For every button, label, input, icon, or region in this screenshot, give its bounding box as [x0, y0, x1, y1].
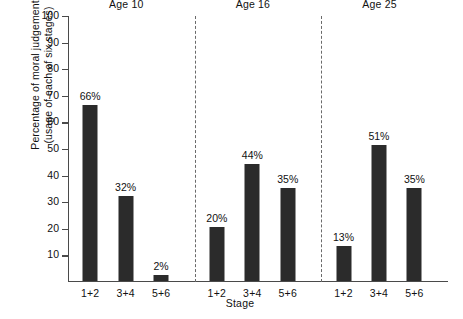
- chart-figure: Percentage of moral judgement (usage of …: [0, 0, 463, 319]
- plot-area: 10090807060504030201066%1+232%3+42%5+620…: [68, 16, 448, 282]
- group-separator: [195, 16, 196, 282]
- bar-value-label: 20%: [206, 212, 227, 224]
- y-axis-tick-label: 10: [47, 248, 59, 260]
- y-axis-tick-label: 50: [47, 142, 59, 154]
- group-title-age-16: Age 16: [236, 0, 270, 10]
- x-axis-tick-label: 1+2: [208, 287, 226, 299]
- y-axis-tick-label: 70: [47, 89, 59, 101]
- x-axis-tick-label: 3+4: [370, 287, 388, 299]
- y-axis-tick-label: 30: [47, 195, 59, 207]
- bar-value-label: 51%: [368, 130, 389, 142]
- bar: 44%: [245, 164, 260, 281]
- bar: 20%: [209, 227, 224, 280]
- y-axis-tick-mark: [62, 149, 69, 150]
- y-axis-tick-mark: [62, 202, 69, 203]
- y-axis-tick-label: 60: [47, 115, 59, 127]
- bar-value-label: 13%: [333, 231, 354, 243]
- y-axis-tick-label: 40: [47, 169, 59, 181]
- x-axis-tick-label: 5+6: [279, 287, 297, 299]
- bar-value-label: 35%: [404, 173, 425, 185]
- y-axis-tick-mark: [62, 16, 69, 17]
- bar: 32%: [118, 196, 133, 281]
- x-axis-tick-label: 5+6: [405, 287, 423, 299]
- group-title-age-10: Age 10: [109, 0, 143, 10]
- y-axis-tick-mark: [62, 69, 69, 70]
- x-axis-tick-label: 1+2: [334, 287, 352, 299]
- bar-value-label: 32%: [115, 181, 136, 193]
- x-axis-tick-label: 3+4: [116, 287, 134, 299]
- y-axis-tick-mark: [62, 229, 69, 230]
- y-axis-tick-mark: [62, 255, 69, 256]
- bar: 51%: [371, 145, 386, 281]
- y-axis-tick-label: 20: [47, 222, 59, 234]
- y-axis-tick-mark: [62, 122, 69, 123]
- bar-value-label: 2%: [154, 260, 169, 272]
- y-axis-tick-mark: [62, 43, 69, 44]
- y-axis-tick-label: 100: [41, 9, 59, 21]
- y-axis-tick-label: 90: [47, 36, 59, 48]
- x-axis-tick-label: 1+2: [81, 287, 99, 299]
- bar: 35%: [407, 188, 422, 281]
- group-separator: [321, 16, 322, 282]
- bar-value-label: 35%: [277, 173, 298, 185]
- bar-value-label: 44%: [242, 149, 263, 161]
- y-axis-tick-mark: [62, 176, 69, 177]
- bar: 2%: [154, 275, 169, 280]
- bar: 13%: [336, 246, 351, 281]
- y-axis-tick-label: 80: [47, 62, 59, 74]
- y-axis-title-line-1: Percentage of moral judgement: [29, 0, 42, 149]
- bar-value-label: 66%: [80, 90, 101, 102]
- bar: 35%: [280, 188, 295, 281]
- x-axis-tick-label: 5+6: [152, 287, 170, 299]
- x-axis-line: [68, 281, 448, 282]
- bar: 66%: [83, 105, 98, 281]
- group-title-age-25: Age 25: [362, 0, 396, 10]
- y-axis-tick-mark: [62, 96, 69, 97]
- x-axis-title: Stage: [226, 297, 254, 309]
